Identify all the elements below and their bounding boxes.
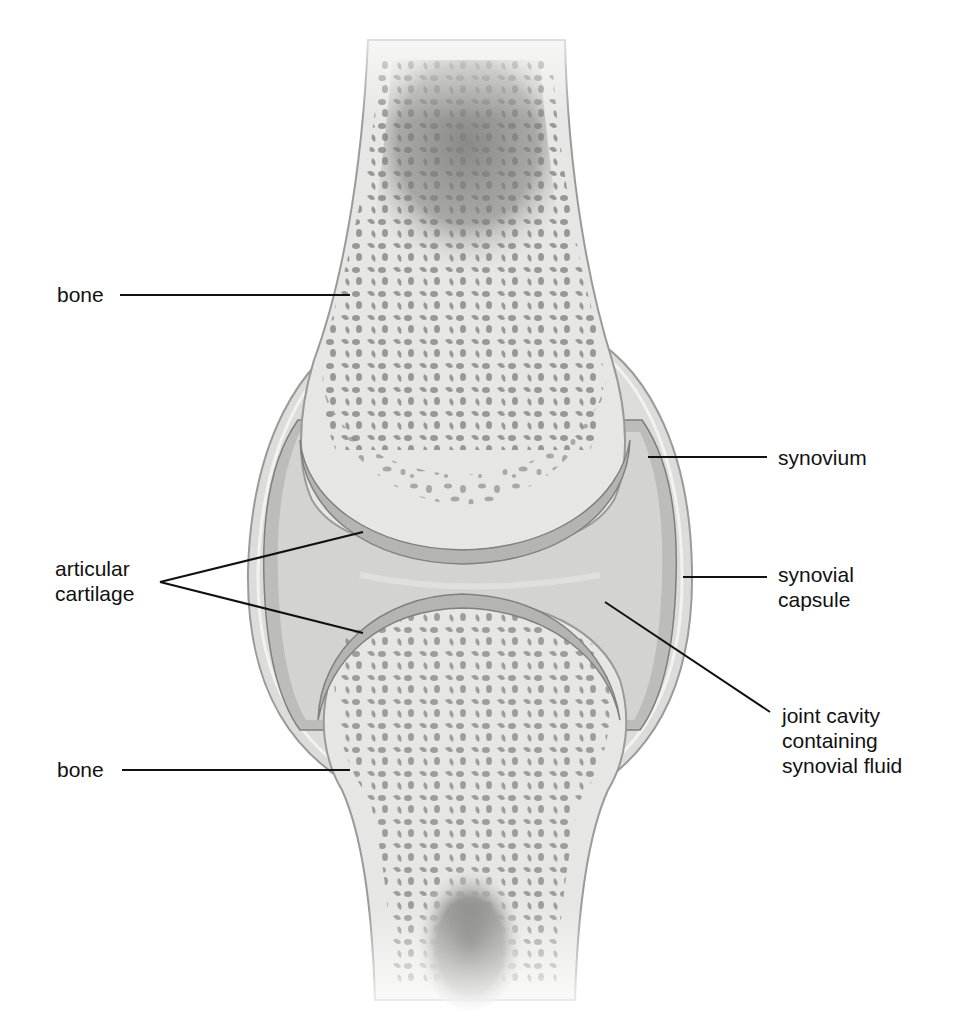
- synovial-joint-diagram: [0, 0, 970, 1025]
- label-synovial-capsule-line2: capsule: [778, 587, 854, 612]
- label-articular-cartilage-line1: articular: [55, 556, 134, 581]
- label-joint-cavity-line2: containing: [782, 728, 902, 753]
- label-articular-cartilage-line2: cartilage: [55, 581, 134, 606]
- label-joint-cavity-line1: joint cavity: [782, 703, 902, 728]
- label-synovium: synovium: [778, 445, 867, 470]
- label-articular-cartilage: articular cartilage: [55, 556, 134, 606]
- label-synovial-capsule-line1: synovial: [778, 562, 854, 587]
- label-joint-cavity: joint cavity containing synovial fluid: [782, 703, 902, 778]
- label-synovial-capsule: synovial capsule: [778, 562, 854, 612]
- bone-bottom: [324, 598, 626, 1025]
- label-bone-bottom: bone: [57, 757, 104, 782]
- bone-top: [301, 0, 625, 550]
- label-bone-top: bone: [57, 282, 104, 307]
- label-joint-cavity-line3: synovial fluid: [782, 753, 902, 778]
